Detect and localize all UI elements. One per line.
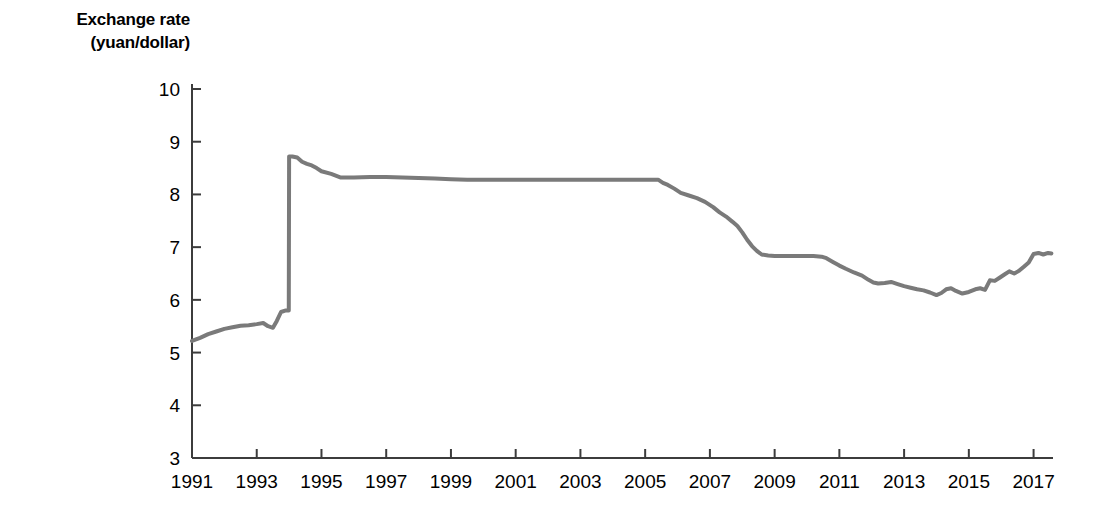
x-tick-label: 2013 xyxy=(869,472,939,491)
y-tick-label: 8 xyxy=(136,185,180,204)
x-tick-label: 2011 xyxy=(804,472,874,491)
data-line xyxy=(192,156,1051,341)
y-tick-label: 10 xyxy=(136,80,180,99)
exchange-rate-chart: Exchange rate (yuan/dollar) 345678910 19… xyxy=(0,0,1104,524)
x-tick-label: 2015 xyxy=(934,472,1004,491)
x-tick-label: 1991 xyxy=(157,472,227,491)
y-tick-label: 9 xyxy=(136,133,180,152)
x-tick-label: 2009 xyxy=(740,472,810,491)
x-tick-label: 2005 xyxy=(610,472,680,491)
x-tick-label: 1997 xyxy=(351,472,421,491)
x-tick-label: 2003 xyxy=(545,472,615,491)
y-tick-label: 6 xyxy=(136,291,180,310)
axis-lines xyxy=(192,84,1053,458)
x-tick-label: 2007 xyxy=(675,472,745,491)
y-tick-label: 4 xyxy=(136,396,180,415)
x-tick-label: 1993 xyxy=(222,472,292,491)
x-tick-label: 1999 xyxy=(416,472,486,491)
x-tick-label: 1995 xyxy=(286,472,356,491)
y-tick-label: 7 xyxy=(136,238,180,257)
tick-marks xyxy=(192,89,1034,458)
x-tick-label: 2017 xyxy=(999,472,1069,491)
y-tick-label: 3 xyxy=(136,449,180,468)
x-tick-label: 2001 xyxy=(481,472,551,491)
data-series-group xyxy=(192,156,1051,341)
y-tick-label: 5 xyxy=(136,344,180,363)
